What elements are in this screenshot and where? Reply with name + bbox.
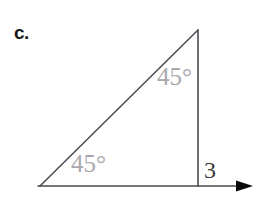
ray-arrowhead-icon <box>236 181 253 192</box>
side-length-label-vertical-leg: 3 <box>204 158 216 182</box>
triangle-diagram <box>0 0 262 202</box>
hypotenuse-line <box>40 30 198 186</box>
part-letter-label: c. <box>14 23 29 42</box>
geometry-figure: c. 45° 45° 3 <box>0 0 262 202</box>
angle-label-top: 45° <box>157 64 192 89</box>
angle-label-bottom-left: 45° <box>71 151 106 176</box>
